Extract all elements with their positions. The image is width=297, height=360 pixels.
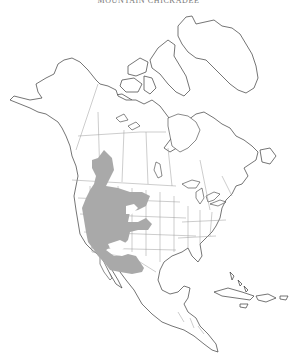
jamaica (240, 304, 248, 308)
greenland (178, 16, 258, 93)
newfoundland (260, 148, 276, 164)
arctic-island (128, 58, 148, 76)
puerto-rico (280, 296, 288, 300)
hispaniola (256, 294, 276, 302)
arctic-island (120, 78, 142, 92)
arctic-island (144, 76, 156, 94)
range-map (0, 0, 297, 360)
